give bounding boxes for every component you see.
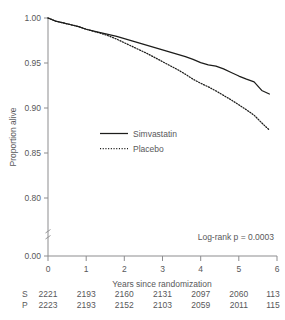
risk-cell: 2103 xyxy=(153,300,172,310)
risk-cell: 2193 xyxy=(77,289,96,299)
risk-cell: 2059 xyxy=(191,300,210,310)
risk-cell: 2131 xyxy=(153,289,172,299)
x-tick-label: 5 xyxy=(236,264,241,274)
x-axis-tick-labels: 0 1 2 3 4 5 6 xyxy=(46,264,280,274)
risk-cell: 113 xyxy=(266,289,280,299)
y-tick-label: 0.00 xyxy=(24,251,41,261)
kaplan-meier-plot: 1.00 0.95 0.90 0.85 0.80 0.00 Proportion… xyxy=(0,0,285,320)
risk-cell: 2160 xyxy=(115,289,134,299)
x-tick-label: 6 xyxy=(275,264,280,274)
survival-chart-figure: 1.00 0.95 0.90 0.85 0.80 0.00 Proportion… xyxy=(0,0,285,320)
log-rank-annotation: Log-rank p = 0.0003 xyxy=(198,232,275,242)
risk-cell: 2223 xyxy=(39,300,58,310)
y-tick-label: 0.95 xyxy=(24,58,41,68)
risk-cell: 2221 xyxy=(39,289,58,299)
risk-cell: 2011 xyxy=(230,300,249,310)
x-axis-title: Years since randomization xyxy=(112,279,212,289)
x-tick-label: 1 xyxy=(84,264,89,274)
y-tick-label: 0.80 xyxy=(24,193,41,203)
risk-cell: 115 xyxy=(266,300,280,310)
y-axis-ticks xyxy=(44,18,48,256)
risk-cell: 2152 xyxy=(115,300,134,310)
risk-cell: 2060 xyxy=(229,289,248,299)
y-tick-label: 1.00 xyxy=(24,13,41,23)
x-tick-label: 2 xyxy=(122,264,127,274)
legend-label-simvastatin: Simvastatin xyxy=(133,129,177,139)
risk-table: S 2221 2193 2160 2131 2097 2060 113 P 22… xyxy=(22,289,280,310)
risk-row-label: P xyxy=(22,300,28,310)
y-tick-label: 0.90 xyxy=(24,103,41,113)
x-axis-ticks xyxy=(48,256,277,261)
survival-curve-placebo xyxy=(48,18,269,130)
x-tick-label: 3 xyxy=(160,264,165,274)
x-tick-label: 0 xyxy=(46,264,51,274)
chart-legend: Simvastatin Placebo xyxy=(100,129,177,154)
risk-cell: 2097 xyxy=(191,289,210,299)
survival-curve-simvastatin xyxy=(48,18,269,94)
legend-label-placebo: Placebo xyxy=(133,144,164,154)
y-axis-tick-labels: 1.00 0.95 0.90 0.85 0.80 0.00 xyxy=(24,13,41,261)
risk-row-label: S xyxy=(22,289,28,299)
y-tick-label: 0.85 xyxy=(24,148,41,158)
x-tick-label: 4 xyxy=(198,264,203,274)
risk-cell: 2193 xyxy=(77,300,96,310)
y-axis-title: Proportion alive xyxy=(8,107,18,166)
